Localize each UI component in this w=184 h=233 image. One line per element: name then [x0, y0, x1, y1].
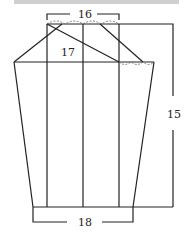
top-width-label: 16 — [78, 8, 92, 21]
bottom-width-dimension: 18 — [33, 207, 133, 229]
top-width-dimension: 16 — [47, 8, 119, 21]
pattern-diagram: 16 17 15 18 — [0, 0, 184, 233]
top-edge — [47, 21, 119, 24]
height-label: 15 — [167, 108, 181, 121]
diagonal-lines — [14, 24, 143, 62]
vertical-guides — [47, 24, 119, 207]
cropped-caption-strip — [14, 0, 179, 4]
height-dimension: 15 — [119, 24, 181, 207]
trapezoid-outline — [14, 62, 173, 207]
bottom-width-label: 18 — [78, 216, 92, 229]
inner-label: 17 — [61, 46, 75, 59]
